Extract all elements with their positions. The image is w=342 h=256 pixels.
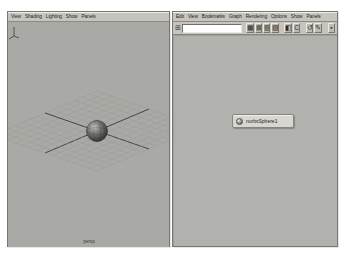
upstream-connections-icon[interactable]: ▧: [263, 23, 270, 33]
menu-panels[interactable]: Panels: [81, 12, 95, 22]
bookmark-grid-icon[interactable]: ⊞: [175, 24, 181, 32]
maya-window: View Shading Lighting Show Panels: [0, 0, 342, 256]
sphere-node-icon: [236, 118, 243, 125]
automatic-layout-icon[interactable]: C: [293, 23, 300, 33]
hypergraph-panel: Edit View Bookmarks Graph Rendering Opti…: [172, 11, 338, 247]
graph-node-nurbs-sphere[interactable]: nurbsSphere1: [232, 114, 294, 128]
freeform-layout-icon[interactable]: ◧: [284, 23, 291, 33]
grid-and-sphere: [8, 22, 169, 247]
hypergraph-menubar: Edit View Bookmarks Graph Rendering Opti…: [173, 12, 337, 22]
nurbs-sphere-object[interactable]: [87, 121, 108, 142]
menu-bookmarks[interactable]: Bookmarks: [202, 12, 225, 22]
menu-panels[interactable]: Panels: [306, 12, 320, 22]
input-output-connections-icon[interactable]: ▤: [255, 23, 262, 33]
menu-shading[interactable]: Shading: [25, 12, 42, 22]
menu-show[interactable]: Show: [291, 12, 303, 22]
cycle-layout-icon[interactable]: ↺: [306, 23, 313, 33]
hypergraph-canvas[interactable]: nurbsSphere1: [173, 35, 337, 246]
menu-view[interactable]: View: [188, 12, 198, 22]
perspective-panel: View Shading Lighting Show Panels: [7, 11, 170, 247]
menu-graph[interactable]: Graph: [229, 12, 242, 22]
menu-edit[interactable]: Edit: [176, 12, 184, 22]
rearrange-graph-icon[interactable]: ✎: [314, 23, 321, 33]
menu-options[interactable]: Options: [271, 12, 287, 22]
menu-lighting[interactable]: Lighting: [46, 12, 62, 22]
perspective-menubar: View Shading Lighting Show Panels: [8, 12, 169, 22]
hypergraph-toolbar: ⊞ ▦ ▤ ▧ ▨ ◧ C ↺ ✎ ▪: [173, 22, 337, 35]
scene-hierarchy-icon[interactable]: ▦: [246, 23, 253, 33]
perspective-viewport[interactable]: persp: [8, 22, 169, 247]
camera-name-label: persp: [83, 239, 95, 244]
graph-node-label: nurbsSphere1: [246, 118, 277, 124]
menu-view[interactable]: View: [11, 12, 21, 22]
node-search-input[interactable]: [182, 24, 242, 33]
downstream-connections-icon[interactable]: ▨: [271, 23, 278, 33]
menu-rendering[interactable]: Rendering: [246, 12, 267, 22]
view-axis-icon: [8, 22, 22, 40]
menu-show[interactable]: Show: [66, 12, 78, 22]
graph-filter-icon[interactable]: ▪: [328, 23, 335, 33]
